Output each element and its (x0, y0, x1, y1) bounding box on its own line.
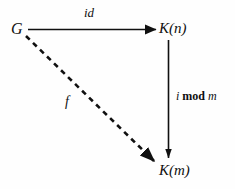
edge-label-mod-part: mod (182, 89, 205, 103)
edge-label-id: id (84, 6, 94, 19)
edge-f-line (26, 36, 154, 161)
edge-label-f: f (65, 95, 69, 109)
node-label-g: G (11, 21, 23, 37)
diagram-canvas: G K(n) K(m) id f i mod m (0, 0, 235, 189)
node-label-kn: K(n) (159, 21, 187, 36)
edge-label-m-part: m (208, 89, 217, 103)
node-label-km: K(m) (159, 163, 190, 178)
edge-label-i-mod-m: i mod m (176, 90, 217, 102)
